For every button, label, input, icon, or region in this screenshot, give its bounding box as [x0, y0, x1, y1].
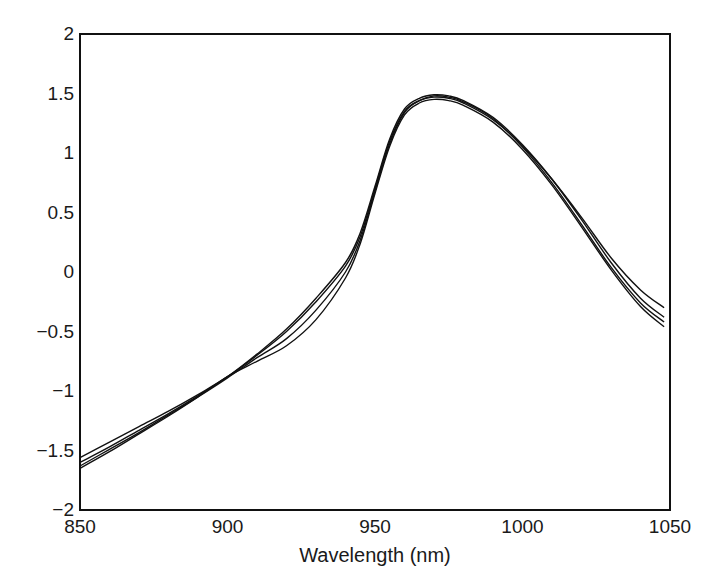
plot-frame	[80, 34, 670, 510]
y-axis-ticks: 21.510.50−0.5−1−1.5−2	[36, 23, 74, 520]
x-axis-ticks: 85090095010001050	[64, 516, 691, 537]
y-tick-label: 2	[63, 23, 74, 44]
x-tick-label: 1050	[649, 516, 691, 537]
x-tick-label: 850	[64, 516, 96, 537]
x-tick-label: 1000	[501, 516, 543, 537]
spectra-line-chart: 21.510.50−0.5−1−1.5−2 85090095010001050 …	[0, 0, 704, 578]
series-line-4	[80, 99, 664, 468]
series-line-2	[80, 95, 664, 463]
series-line-3	[80, 96, 664, 466]
y-tick-label: −1.5	[36, 440, 74, 461]
y-tick-label: 0.5	[48, 202, 74, 223]
x-tick-label: 950	[359, 516, 391, 537]
x-axis-title: Wavelength (nm)	[299, 544, 451, 566]
x-tick-label: 900	[212, 516, 244, 537]
series-line-1	[80, 97, 664, 458]
y-tick-label: 1.5	[48, 83, 74, 104]
y-tick-label: 0	[63, 261, 74, 282]
y-tick-label: −1	[52, 380, 74, 401]
series-lines	[80, 95, 664, 469]
y-tick-label: −0.5	[36, 321, 74, 342]
y-tick-label: 1	[63, 142, 74, 163]
